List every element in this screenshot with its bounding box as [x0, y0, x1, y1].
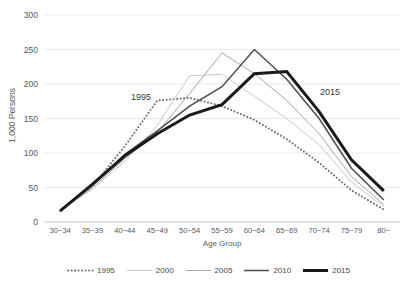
legend-item-2010[interactable]: 2010 [243, 266, 291, 275]
legend-item-2005[interactable]: 2005 [185, 266, 233, 275]
gridlines [44, 15, 400, 222]
legend-swatch-2015 [302, 266, 329, 275]
legend-item-1995[interactable]: 1995 [67, 266, 115, 275]
legend-label: 2000 [156, 266, 174, 275]
legend-label: 2015 [332, 266, 350, 275]
annotation-1995: 1995 [131, 92, 151, 102]
series-lines [60, 50, 384, 211]
x-tick-label: 80~ [362, 226, 406, 236]
x-axis-title: Age Group [44, 239, 400, 249]
legend-label: 1995 [97, 266, 115, 275]
legend-swatch-2000 [126, 266, 153, 275]
legend-item-2000[interactable]: 2000 [126, 266, 174, 275]
series-line-2010 [60, 50, 384, 211]
line-chart: 1,000 Persons 300250200150100500 1995201… [0, 0, 417, 286]
legend-label: 2010 [273, 266, 291, 275]
x-tick-labels: 30~3435~3940~4445~4950~5455~5960~6465~69… [44, 226, 400, 238]
legend: 19952000200520102015 [0, 263, 417, 277]
annotation-2015: 2015 [320, 87, 340, 97]
legend-label: 2005 [215, 266, 233, 275]
legend-swatch-2005 [185, 266, 212, 275]
legend-item-2015[interactable]: 2015 [302, 266, 350, 275]
legend-swatch-2010 [243, 266, 270, 275]
legend-swatch-1995 [67, 266, 94, 275]
